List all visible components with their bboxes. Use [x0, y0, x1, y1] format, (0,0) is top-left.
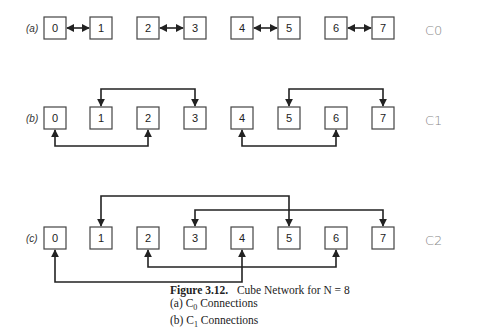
node-label: 5 [286, 22, 292, 34]
node-label: 4 [239, 112, 245, 124]
node-label: 1 [98, 112, 104, 124]
node-label: 3 [192, 22, 198, 34]
c1-link-1-3 [101, 89, 195, 106]
node-label: 0 [52, 112, 58, 124]
node-label: 3 [192, 112, 198, 124]
c1-link-0-2 [55, 130, 148, 146]
caption-item-b: (b) C1 Connections [170, 314, 350, 331]
node-label: 4 [239, 22, 245, 34]
node-label: 2 [145, 112, 151, 124]
node-label: 2 [145, 22, 151, 34]
c1-link-5-7 [289, 89, 383, 106]
node-label: 7 [380, 112, 386, 124]
node-label: 6 [333, 112, 339, 124]
node-label: 0 [52, 232, 58, 244]
handwritten-note-a: C0 [425, 23, 442, 38]
handwritten-note-c: C2 [425, 233, 442, 248]
node-label: 4 [239, 232, 245, 244]
row-label-a: (a) [26, 23, 38, 34]
c1-link-4-6 [242, 130, 336, 146]
node-label: 7 [380, 22, 386, 34]
figure-number: Figure 3.12. [170, 284, 228, 296]
node-label: 6 [333, 232, 339, 244]
node-label: 1 [98, 232, 104, 244]
node-label: 5 [286, 232, 292, 244]
row-label-c: (c) [26, 233, 38, 244]
figure-caption: Figure 3.12. Cube Network for N = 8 (a) … [170, 284, 350, 332]
node-label: 0 [52, 22, 58, 34]
caption-item-a: (a) C0 Connections [170, 297, 350, 314]
figure-title: Cube Network for N = 8 [237, 284, 350, 296]
row-label-b: (b) [26, 113, 38, 124]
node-label: 3 [192, 232, 198, 244]
node-label: 7 [380, 232, 386, 244]
node-label: 2 [145, 232, 151, 244]
node-label: 1 [98, 22, 104, 34]
node-label: 5 [286, 112, 292, 124]
handwritten-note-b: C1 [425, 113, 442, 128]
node-label: 6 [333, 22, 339, 34]
